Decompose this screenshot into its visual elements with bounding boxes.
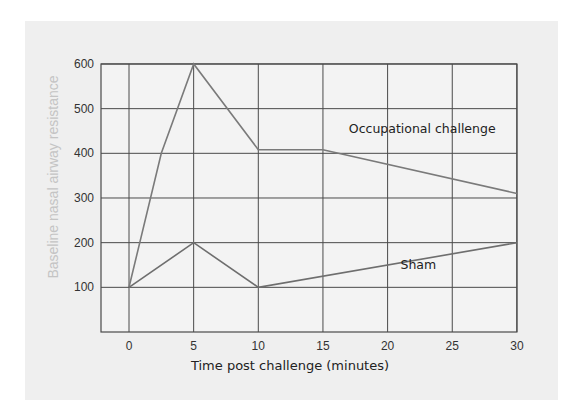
x-axis-label: Time post challenge (minutes) <box>190 358 389 373</box>
grid-lines <box>101 64 517 332</box>
x-axis-ticks: 051015202530 <box>126 339 524 353</box>
x-tick-label: 30 <box>510 339 524 353</box>
y-tick-label: 300 <box>74 191 94 205</box>
x-tick-label: 10 <box>252 339 266 353</box>
y-axis-ticks: 100200300400500600 <box>74 57 94 294</box>
y-axis-label: Baseline nasal airway resistance <box>45 75 61 278</box>
y-tick-label: 400 <box>74 146 94 160</box>
x-tick-label: 0 <box>126 339 133 353</box>
x-tick-label: 5 <box>190 339 197 353</box>
y-tick-label: 200 <box>74 236 94 250</box>
x-tick-label: 20 <box>381 339 395 353</box>
sham-label: Sham <box>401 257 437 272</box>
y-tick-label: 100 <box>74 280 94 294</box>
y-tick-label: 600 <box>74 57 94 71</box>
x-tick-label: 15 <box>316 339 330 353</box>
line-chart: 100200300400500600 051015202530 Time pos… <box>0 0 562 416</box>
y-tick-label: 500 <box>74 102 94 116</box>
occupational-challenge-label: Occupational challenge <box>349 121 496 136</box>
x-tick-label: 25 <box>446 339 460 353</box>
